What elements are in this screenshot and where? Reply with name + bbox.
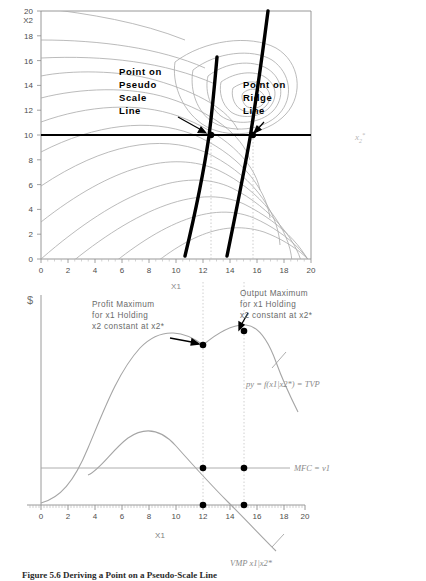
upper-x-tick-14: 14 [226,266,235,275]
lower-x-tick-4: 4 [93,512,98,521]
upper-y-tick-16: 16 [24,57,33,66]
vmp-mfc-intersection-point[interactable] [200,465,207,472]
upper-x-tick-10: 10 [172,266,181,275]
upper-x-tick-2: 2 [66,266,71,275]
pseudo-annot-line-4: Line [119,105,141,116]
upper-x-axis-label: X1 [171,282,181,291]
lower-x-axis-label: X1 [155,531,165,540]
axis-point-16[interactable] [241,502,248,509]
output-max-line-2: for x1 Holding [240,300,296,309]
vmp-label: VMP x1|x2* [230,558,273,568]
tvp-label: py = f(x1|x2*) = TVP [245,379,320,389]
upper-y-tick-6: 6 [29,181,34,190]
ridge-annot-line-3: Line [243,105,265,116]
x2-star-sub: 2 [359,138,362,144]
output-max-line-1: Output Maximum [240,289,308,298]
lower-x-tick-6: 6 [120,512,125,521]
upper-x-tick-4: 4 [93,266,98,275]
upper-y-tick-12: 12 [24,106,33,115]
profit-max-point[interactable] [200,342,207,349]
upper-x-tick-20: 20 [307,266,316,275]
profit-max-line-3: x2 constant at x2* [92,322,165,331]
lower-x-tick-20: 20 [301,512,310,521]
upper-y-tick-20: 20 [24,7,33,16]
upper-x-tick-8: 8 [147,266,152,275]
axis-point-13[interactable] [200,502,207,509]
pseudo-annot-line-2: Pseudo [119,79,157,90]
upper-y-tick-4: 4 [29,205,34,214]
upper-y-tick-14: 14 [24,81,33,90]
upper-y-tick-10: 10 [24,131,33,140]
upper-y-tick-18: 18 [24,32,33,41]
profit-max-line-2: for x1 Holding [92,311,148,320]
upper-y-axis-label: X2 [23,16,33,25]
profit-max-line-1: Profit Maximum [92,300,154,309]
lower-x-tick-18: 18 [280,512,289,521]
pseudo-annot-line-1: Point on [119,66,162,77]
mfc-label: MFC = v1 [293,463,330,473]
lower-x-tick-2: 2 [66,512,71,521]
upper-x-tick-18: 18 [280,266,289,275]
upper-x-tick-0: 0 [39,266,44,275]
output-max-line-3: x2 constant at x2* [240,311,313,320]
upper-y-tick-2: 2 [29,230,34,239]
mfc-point-16[interactable] [241,465,248,472]
ridge-annot-line-1: Point on [243,79,286,90]
upper-y-tick-0: 0 [29,255,34,264]
pseudo-annot-line-3: Scale [119,92,147,103]
output-max-point[interactable] [241,328,248,335]
upper-x-tick-16: 16 [253,266,262,275]
lower-x-tick-8: 8 [147,512,152,521]
pseudo-scale-point[interactable] [208,132,214,138]
x2-star-sup: * [362,132,365,138]
upper-x-tick-12: 12 [199,266,208,275]
upper-y-tick-8: 8 [29,156,34,165]
lower-x-tick-14: 14 [226,512,235,521]
ridge-annot-line-2: Ridge [243,92,272,103]
lower-x-tick-16: 16 [253,512,262,521]
lower-x-tick-10: 10 [172,512,181,521]
lower-y-axis-label: $ [27,294,33,306]
lower-x-tick-12: 12 [199,512,208,521]
lower-x-tick-0: 0 [39,512,44,521]
upper-x-tick-6: 6 [120,266,125,275]
figure-canvas: 0 2 4 6 8 10 12 14 16 18 20 0 2 4 6 8 10… [0,0,426,581]
figure-caption: Figure 5.6 Deriving a Point on a Pseudo-… [22,570,217,580]
